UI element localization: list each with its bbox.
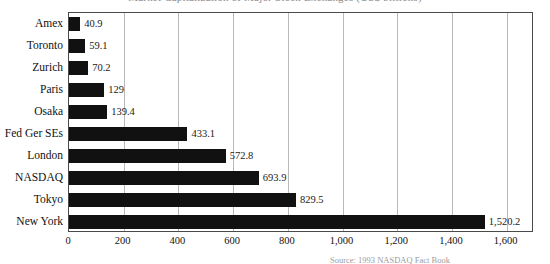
bar-row: 59.1: [69, 35, 532, 57]
bar: [69, 171, 259, 185]
bar: [69, 127, 187, 141]
x-axis-tick-label: 800: [257, 234, 317, 247]
bar-row: 129: [69, 79, 532, 101]
bar-value-label: 572.8: [226, 149, 254, 163]
bar-value-label: 139.4: [107, 105, 135, 119]
x-axis-tick-label: 1,200: [366, 234, 426, 247]
bar-row: 70.2: [69, 57, 532, 79]
bar-row: 40.9: [69, 13, 532, 35]
bar: [69, 61, 88, 75]
y-axis-category-label: Tokyo: [0, 188, 63, 210]
bar-value-label: 129: [104, 83, 124, 97]
bar-row: 433.1: [69, 123, 532, 145]
x-axis-tick-label: 1,000: [312, 234, 372, 247]
y-axis-category-label: Zurich: [0, 56, 63, 78]
bar: [69, 215, 485, 229]
y-axis-category-label: Amex: [0, 12, 63, 34]
plot-area: 40.959.170.2129139.4433.1572.8693.9829.5…: [68, 12, 533, 232]
bar-value-label: 1,520.2: [485, 215, 521, 229]
x-axis-tick-label: 1,600: [476, 234, 536, 247]
bar: [69, 39, 85, 53]
y-axis-category-label: Fed Ger SEs: [0, 122, 63, 144]
bar-row: 572.8: [69, 145, 532, 167]
bar-row: 693.9: [69, 167, 532, 189]
x-axis-tick-label: 0: [38, 234, 98, 247]
bar-value-label: 433.1: [187, 127, 215, 141]
y-axis-category-label: Toronto: [0, 34, 63, 56]
bar: [69, 105, 107, 119]
y-axis-category-label: New York: [0, 210, 63, 232]
bar: [69, 83, 104, 97]
bar: [69, 193, 296, 207]
bar-value-label: 40.9: [80, 17, 102, 31]
bar-row: 829.5: [69, 189, 532, 211]
y-axis-category-label: NASDAQ: [0, 166, 63, 188]
bar-value-label: 70.2: [88, 61, 110, 75]
x-axis-tick-label: 600: [202, 234, 262, 247]
bar-value-label: 693.9: [259, 171, 287, 185]
x-axis-tick-label: 1,400: [421, 234, 481, 247]
bar: [69, 17, 80, 31]
bar-row: 139.4: [69, 101, 532, 123]
bar: [69, 149, 226, 163]
y-axis-category-label: Paris: [0, 78, 63, 100]
bar-row: 1,520.2: [69, 211, 532, 233]
source-note-clipped: Source: 1993 NASDAQ Fact Book: [330, 255, 550, 264]
y-axis-category-label: Osaka: [0, 100, 63, 122]
bar-chart: AmexTorontoZurichParisOsakaFed Ger SEsLo…: [0, 0, 550, 264]
source-note-text: Source: 1993 NASDAQ Fact Book: [330, 255, 550, 264]
bar-value-label: 829.5: [296, 193, 324, 207]
y-axis-category-label: London: [0, 144, 63, 166]
x-axis-tick-label: 200: [93, 234, 153, 247]
x-axis-tick-label: 400: [147, 234, 207, 247]
bar-value-label: 59.1: [85, 39, 107, 53]
